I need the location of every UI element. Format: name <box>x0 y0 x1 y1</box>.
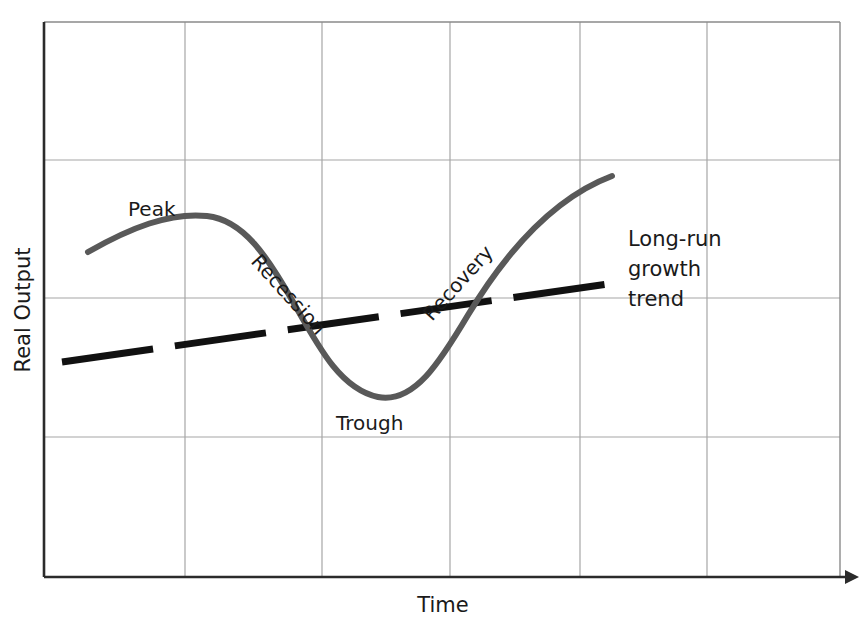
trend-label-line-3: trend <box>628 287 684 311</box>
annotation-recession: Recession <box>246 249 331 339</box>
business-cycle-diagram: Real Output Time Peak Recession Trough R… <box>0 0 863 630</box>
trend-label-line-1: Long-run <box>628 227 722 251</box>
annotation-trough: Trough <box>335 411 403 435</box>
y-axis-title: Real Output <box>11 248 35 373</box>
x-axis-title: Time <box>416 593 468 617</box>
annotation-peak: Peak <box>128 197 176 221</box>
long-run-growth-trend-line <box>62 283 615 362</box>
trend-label-line-2: growth <box>628 257 701 281</box>
x-axis-arrowhead-icon <box>845 570 859 584</box>
chart-canvas: Real Output Time Peak Recession Trough R… <box>0 0 863 630</box>
